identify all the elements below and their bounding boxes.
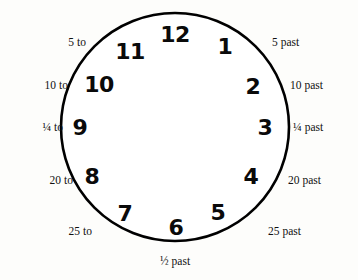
minute-label-10-to: 10to bbox=[45, 80, 68, 92]
minute-label-number: 25 bbox=[69, 225, 81, 237]
minute-label-25-to: 25to bbox=[69, 226, 92, 238]
minute-label-number: 10 bbox=[45, 79, 57, 91]
minute-label-word: to bbox=[64, 174, 73, 186]
minute-label-number: 25 bbox=[268, 225, 280, 237]
minute-label-word: past bbox=[283, 225, 302, 237]
hour-numeral-8: 8 bbox=[85, 166, 100, 188]
hour-numeral-1: 1 bbox=[218, 36, 233, 58]
minute-label-number: 20 bbox=[50, 174, 62, 186]
minute-label-25-past: 25past bbox=[268, 226, 301, 238]
minute-label-word: to bbox=[77, 36, 86, 48]
minute-label-word: past bbox=[305, 79, 324, 91]
minute-label-20-past: 20past bbox=[288, 175, 321, 187]
clock-face-diagram: 121234567891011 5past10past¼past20past25… bbox=[0, 0, 358, 280]
minute-label-number: 10 bbox=[290, 79, 302, 91]
hour-numeral-4: 4 bbox=[244, 166, 259, 188]
minute-label-20-to: 20to bbox=[50, 175, 73, 187]
minute-label-word: to bbox=[59, 79, 68, 91]
hour-numeral-7: 7 bbox=[118, 203, 133, 225]
hour-numeral-6: 6 bbox=[169, 217, 184, 239]
minute-label-word: past bbox=[305, 121, 324, 133]
hour-numeral-5: 5 bbox=[211, 202, 226, 224]
minute-label-½-past: ½past bbox=[160, 256, 190, 268]
hour-numeral-9: 9 bbox=[73, 117, 88, 139]
minute-label-10-past: 10past bbox=[290, 80, 323, 92]
hour-numeral-11: 11 bbox=[115, 41, 145, 63]
clock-face-circle bbox=[61, 13, 289, 241]
minute-label-5-past: 5past bbox=[272, 37, 299, 49]
minute-label-number: 5 bbox=[68, 36, 74, 48]
minute-label-¼-to: ¼to bbox=[42, 122, 63, 134]
minute-label-word: past bbox=[303, 174, 322, 186]
minute-label-¼-past: ¼past bbox=[293, 122, 323, 134]
hour-numeral-3: 3 bbox=[258, 117, 273, 139]
minute-label-word: to bbox=[83, 225, 92, 237]
minute-label-word: past bbox=[172, 255, 191, 267]
minute-label-number: ½ bbox=[160, 255, 169, 267]
minute-label-number: 5 bbox=[272, 36, 278, 48]
minute-label-word: to bbox=[54, 121, 63, 133]
hour-numeral-2: 2 bbox=[246, 76, 261, 98]
minute-label-word: past bbox=[281, 36, 300, 48]
hour-numeral-10: 10 bbox=[84, 74, 114, 96]
hour-numeral-12: 12 bbox=[160, 24, 190, 46]
minute-label-number: ¼ bbox=[293, 121, 302, 133]
minute-label-number: ¼ bbox=[42, 121, 51, 133]
minute-label-number: 20 bbox=[288, 174, 300, 186]
minute-label-5-to: 5to bbox=[68, 37, 86, 49]
